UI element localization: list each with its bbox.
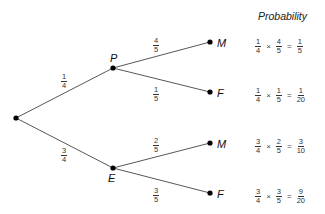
- equals-sign: =: [287, 42, 292, 51]
- node-pm: [207, 39, 212, 44]
- label-m2: M: [217, 138, 226, 150]
- node-e: [110, 165, 115, 170]
- calc-factor-b: 25: [276, 138, 282, 155]
- node-ef: [207, 190, 212, 195]
- node-pf: [207, 89, 212, 94]
- node-em: [207, 140, 212, 145]
- tree-diagram: [0, 0, 325, 214]
- times-sign: ×: [266, 91, 271, 100]
- branch-p-m: [113, 42, 210, 68]
- calc-result: 920: [297, 188, 305, 205]
- calc-row-3: 34 × 25 = 310: [255, 138, 305, 155]
- calc-row-1: 14 × 45 = 15: [255, 38, 303, 55]
- root-node: [13, 115, 18, 120]
- calc-factor-a: 34: [255, 138, 261, 155]
- branch-prob-pm: 4 5: [153, 37, 159, 54]
- calc-row-4: 34 × 35 = 920: [255, 188, 305, 205]
- calc-result: 15: [297, 38, 303, 55]
- equals-sign: =: [287, 192, 292, 201]
- branch-e-m: [113, 143, 210, 168]
- calc-factor-b: 35: [276, 188, 282, 205]
- branch-e-f: [113, 168, 210, 193]
- calc-result: 120: [297, 87, 305, 104]
- calc-factor-a: 14: [255, 87, 261, 104]
- calc-factor-a: 14: [255, 38, 261, 55]
- label-p: P: [110, 52, 117, 64]
- times-sign: ×: [266, 192, 271, 201]
- label-e: E: [108, 172, 115, 184]
- label-m1: M: [217, 37, 226, 49]
- label-f2: F: [217, 188, 224, 200]
- branch-p-f: [113, 68, 210, 92]
- branch-prob-pf: 1 5: [153, 86, 159, 103]
- times-sign: ×: [266, 142, 271, 151]
- branch-prob-e: 3 4: [61, 147, 67, 164]
- calc-result: 310: [297, 138, 305, 155]
- label-f1: F: [217, 87, 224, 99]
- calc-factor-a: 34: [255, 188, 261, 205]
- calc-factor-b: 15: [276, 87, 282, 104]
- branch-prob-p: 1 4: [61, 73, 67, 90]
- branch-prob-ef: 3 5: [153, 187, 159, 204]
- equals-sign: =: [287, 91, 292, 100]
- calc-factor-b: 45: [276, 38, 282, 55]
- probability-title: Probability: [258, 10, 307, 22]
- calc-row-2: 14 × 15 = 120: [255, 87, 305, 104]
- equals-sign: =: [287, 142, 292, 151]
- branch-prob-em: 2 5: [153, 137, 159, 154]
- node-p: [110, 65, 115, 70]
- times-sign: ×: [266, 42, 271, 51]
